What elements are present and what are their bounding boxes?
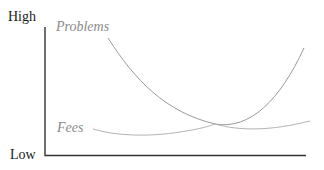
y-axis-low-label: Low — [10, 148, 36, 162]
problems-curve — [108, 38, 304, 125]
fees-curve — [93, 121, 310, 135]
problems-series-label: Problems — [56, 20, 109, 34]
y-axis-high-label: High — [8, 10, 36, 24]
chart-plot-area — [0, 0, 324, 170]
fees-series-label: Fees — [57, 121, 83, 135]
problems-vs-fees-chart: High Low Problems Fees — [0, 0, 324, 170]
